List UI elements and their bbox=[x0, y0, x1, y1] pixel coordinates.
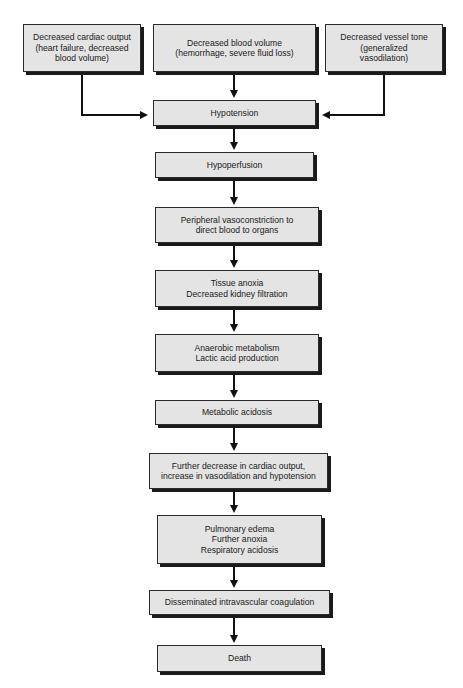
box-text-line: increase in vasodilation and hypotension bbox=[161, 471, 316, 482]
step-peripheral-vasoconstriction: Peripheral vasoconstriction to direct bl… bbox=[155, 207, 319, 243]
box-text-line: (hemorrhage, severe fluid loss) bbox=[175, 48, 293, 59]
box-text-line: Further decrease in cardiac output, bbox=[161, 461, 316, 472]
box-text-line: Death bbox=[228, 653, 251, 664]
box-text-line: Hypoperfusion bbox=[207, 160, 262, 171]
box-text-line: (generalized bbox=[340, 43, 427, 54]
arrow-tone-to-hypotension bbox=[324, 73, 384, 115]
step-hypotension: Hypotension bbox=[153, 100, 316, 126]
box-text-line: Decreased kidney filtration bbox=[186, 289, 287, 300]
step-metabolic-acidosis: Metabolic acidosis bbox=[155, 400, 319, 425]
step-pulmonary-edema: Pulmonary edema Further anoxia Respirato… bbox=[157, 515, 322, 564]
box-text-line: Anaerobic metabolism bbox=[194, 343, 279, 354]
cause-decreased-cardiac-output: Decreased cardiac output (heart failure,… bbox=[23, 24, 141, 72]
box-text-line: Lactic acid production bbox=[194, 353, 279, 364]
step-death: Death bbox=[157, 645, 322, 672]
step-anaerobic-metabolism: Anaerobic metabolism Lactic acid product… bbox=[155, 334, 319, 372]
box-text-line: Disseminated intravascular coagulation bbox=[165, 597, 315, 608]
box-text-line: Metabolic acidosis bbox=[202, 407, 272, 418]
arrow-cardiac-to-hypotension bbox=[82, 73, 146, 115]
box-text-line: Pulmonary edema bbox=[201, 524, 278, 535]
step-hypoperfusion: Hypoperfusion bbox=[155, 152, 314, 178]
step-dic: Disseminated intravascular coagulation bbox=[149, 590, 330, 615]
cause-decreased-vessel-tone: Decreased vessel tone (generalized vasod… bbox=[325, 24, 443, 72]
step-tissue-anoxia: Tissue anoxia Decreased kidney filtratio… bbox=[155, 270, 319, 307]
box-text-line: Hypotension bbox=[211, 108, 259, 119]
box-text-line: Decreased blood volume bbox=[175, 38, 293, 49]
box-text-line: direct blood to organs bbox=[181, 225, 294, 236]
cause-decreased-blood-volume: Decreased blood volume (hemorrhage, seve… bbox=[153, 24, 316, 72]
box-text-line: Further anoxia bbox=[201, 534, 278, 545]
box-text-line: blood volume) bbox=[33, 53, 131, 64]
box-text-line: (heart failure, decreased bbox=[33, 43, 131, 54]
box-text-line: Respiratory acidosis bbox=[201, 545, 278, 556]
step-further-decrease: Further decrease in cardiac output, incr… bbox=[149, 453, 328, 489]
box-text-line: Decreased cardiac output bbox=[33, 32, 131, 43]
box-text-line: Tissue anoxia bbox=[186, 278, 287, 289]
box-text-line: Peripheral vasoconstriction to bbox=[181, 215, 294, 226]
box-text-line: vasodilation) bbox=[340, 53, 427, 64]
box-text-line: Decreased vessel tone bbox=[340, 32, 427, 43]
